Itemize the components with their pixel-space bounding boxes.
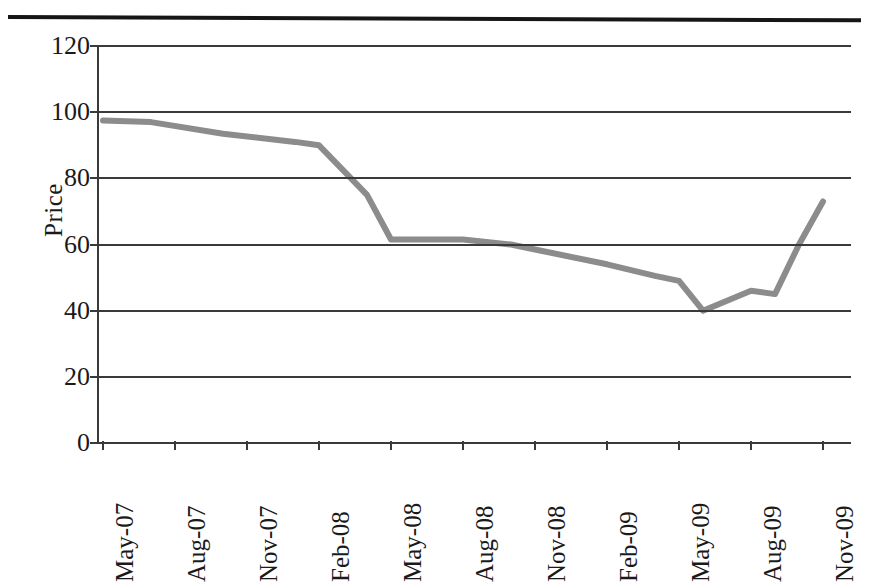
y-axis-tick-label: 20 — [24, 364, 90, 390]
x-axis-tick-label: Feb-08 — [328, 452, 353, 582]
y-axis-tick-mark — [90, 111, 98, 113]
x-axis-tick-mark — [822, 441, 824, 450]
y-axis-tick-label: 100 — [24, 99, 90, 125]
grid-line — [97, 310, 851, 312]
x-axis-tick-mark — [462, 441, 464, 450]
x-axis-tick-mark — [390, 441, 392, 450]
price-series-line — [103, 120, 823, 310]
y-axis-tick-mark — [90, 45, 98, 47]
x-axis-tick-mark — [318, 441, 320, 450]
grid-line — [97, 45, 851, 47]
grid-line — [97, 111, 851, 113]
grid-line — [97, 177, 851, 179]
y-axis-tick-label: 60 — [24, 232, 90, 258]
y-axis-tick-label: 120 — [24, 33, 90, 59]
x-axis-tick-mark — [246, 441, 248, 450]
x-axis-tick-mark — [534, 441, 536, 450]
x-axis-tick-mark — [102, 441, 104, 450]
y-axis-tick-label: 40 — [24, 298, 90, 324]
plot-area — [97, 46, 851, 443]
x-axis-tick-mark — [174, 441, 176, 450]
y-axis-tick-mark — [90, 376, 98, 378]
x-axis-tick-label: Feb-09 — [616, 452, 641, 582]
y-axis-tick-mark — [90, 442, 98, 444]
grid-line — [97, 442, 851, 444]
x-axis-tick-label: Aug-07 — [184, 452, 209, 582]
grid-line — [97, 244, 851, 246]
y-axis-tick-mark — [90, 310, 98, 312]
x-axis-tick-mark — [750, 441, 752, 450]
y-axis-tick-label: 0 — [24, 430, 90, 456]
x-axis-tick-label: Aug-08 — [472, 452, 497, 582]
x-axis-tick-label: May-09 — [688, 452, 713, 582]
x-axis-tick-label: Aug-09 — [760, 452, 785, 582]
x-axis-tick-mark — [606, 441, 608, 450]
x-axis-tick-label: Nov-08 — [544, 452, 569, 582]
y-axis-tick-mark — [90, 244, 98, 246]
x-axis-tick-label: May-08 — [400, 452, 425, 582]
y-axis-tick-mark — [90, 177, 98, 179]
x-axis-tick-mark — [678, 441, 680, 450]
x-axis-tick-label: Nov-09 — [832, 452, 857, 582]
y-axis-tick-labels: 020406080100120 — [16, 0, 90, 537]
x-axis-tick-label: May-07 — [112, 452, 137, 582]
grid-line — [97, 376, 851, 378]
y-axis-tick-label: 80 — [24, 165, 90, 191]
x-axis-tick-label: Nov-07 — [256, 452, 281, 582]
